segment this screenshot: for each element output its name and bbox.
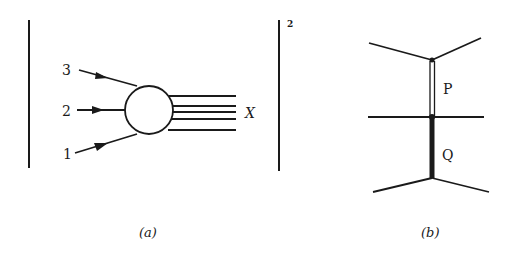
arrow-icon (95, 72, 108, 79)
incoming-line-1 (75, 134, 137, 153)
incoming-line-2 (77, 106, 125, 114)
bottom-left-leg (373, 178, 432, 192)
arrow-icon (94, 143, 108, 151)
label-2: 2 (62, 103, 71, 119)
caption-a: (a) (139, 225, 157, 240)
bottom-right-leg (432, 178, 489, 192)
label-1: 1 (63, 146, 72, 162)
top-left-leg (369, 43, 432, 60)
diagram-b: P Q (b) (368, 38, 489, 240)
label-3: 3 (62, 62, 71, 78)
incoming-line-3 (79, 70, 137, 86)
top-right-leg (432, 38, 481, 60)
exponent-label: 2 (287, 19, 293, 29)
caption-b: (b) (421, 225, 439, 240)
label-p: P (443, 81, 452, 97)
propagator-p (430, 61, 435, 117)
interaction-blob (125, 86, 173, 134)
diagram-a: 2 3 2 1 X (a) (29, 19, 293, 240)
label-x: X (244, 105, 256, 121)
label-q: Q (442, 147, 453, 163)
outgoing-lines-x (168, 96, 236, 130)
arrow-icon (92, 106, 104, 114)
diagram-canvas: 2 3 2 1 X (a) (0, 0, 511, 258)
